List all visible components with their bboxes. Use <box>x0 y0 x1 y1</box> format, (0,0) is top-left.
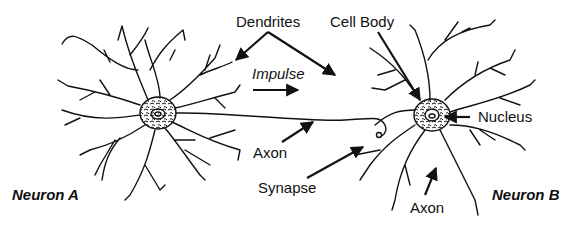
neuron-a <box>58 26 386 200</box>
label-impulse: Impulse <box>252 66 305 81</box>
label-synapse: Synapse <box>258 180 316 195</box>
label-neuron-b: Neuron B <box>492 187 560 202</box>
label-axon-a: Axon <box>253 145 287 160</box>
label-cell-body: Cell Body <box>330 14 394 29</box>
label-nucleus: Nucleus <box>478 109 532 124</box>
label-neuron-a: Neuron A <box>12 187 79 202</box>
label-dendrites: Dendrites <box>236 14 300 29</box>
label-axon-b: Axon <box>410 200 444 215</box>
